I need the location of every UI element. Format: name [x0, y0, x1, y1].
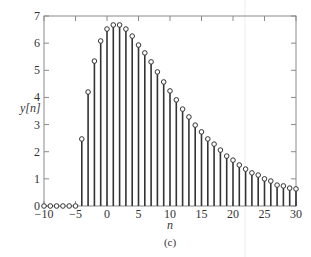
stem-marker: [281, 184, 286, 189]
x-tick-label: 30: [290, 207, 302, 221]
stem-marker: [180, 107, 185, 112]
x-axis-label: n: [167, 218, 173, 232]
stem-marker: [275, 183, 280, 188]
stem-marker: [80, 137, 85, 142]
stem-marker: [231, 158, 236, 163]
stem-marker: [73, 204, 78, 209]
stem-marker: [86, 90, 91, 95]
y-tick-label: 1: [34, 172, 40, 186]
stem-marker: [199, 130, 204, 135]
stem-marker: [193, 123, 198, 128]
x-tick-label: 15: [196, 207, 208, 221]
stem-marker: [237, 163, 242, 168]
stem-marker: [61, 204, 66, 209]
stem-marker: [143, 51, 148, 56]
x-tick-label: −10: [35, 207, 54, 221]
stem-marker: [256, 173, 261, 178]
y-tick-label: 5: [34, 63, 40, 77]
tick-labels: 01234567−10−5051015202530: [34, 9, 302, 221]
stem-marker: [117, 23, 122, 28]
stem-marker: [161, 80, 166, 85]
y-tick-label: 3: [34, 118, 40, 132]
stem-marker: [243, 167, 248, 172]
stem-marker: [206, 137, 211, 142]
stem-marker: [105, 27, 110, 32]
stem-marker: [42, 204, 47, 209]
y-axis-label: y[n]: [19, 101, 41, 115]
stem-marker: [168, 89, 173, 94]
y-tick-label: 2: [34, 145, 40, 159]
stem-marker: [124, 27, 129, 32]
x-tick-label: 25: [259, 207, 271, 221]
x-tick-label: −5: [69, 207, 82, 221]
stem-marker: [155, 70, 160, 75]
stem-marker: [111, 23, 116, 28]
stem-marker: [250, 171, 255, 176]
stem-plot: 01234567−10−5051015202530 y[n] n (c): [0, 0, 311, 257]
y-tick-label: 6: [34, 36, 40, 50]
stem-marker: [187, 115, 192, 120]
stem-marker: [48, 204, 53, 209]
stem-marker: [54, 204, 59, 209]
stem-marker: [262, 177, 267, 182]
stem-marker: [218, 148, 223, 153]
stem-marker: [130, 34, 135, 39]
x-tick-label: 5: [136, 207, 142, 221]
stem-marker: [174, 98, 179, 103]
stem-marker: [269, 179, 274, 184]
stem-marker: [224, 154, 229, 159]
figure-caption: (c): [164, 236, 177, 249]
stems: [42, 23, 299, 209]
x-tick-label: 20: [227, 207, 239, 221]
stem-marker: [98, 39, 103, 44]
stem-marker: [294, 187, 299, 192]
stem-marker: [92, 59, 97, 64]
stem-marker: [287, 186, 292, 191]
stem-marker: [212, 142, 217, 147]
stem-marker: [149, 60, 154, 65]
stem-marker: [136, 43, 141, 48]
y-tick-label: 7: [34, 9, 40, 23]
x-tick-label: 0: [104, 207, 110, 221]
stem-marker: [67, 204, 72, 209]
